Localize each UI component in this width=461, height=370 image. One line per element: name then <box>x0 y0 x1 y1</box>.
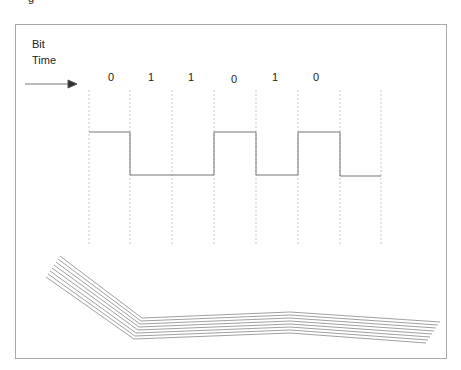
wire-bundle <box>46 256 440 343</box>
diagram-graphics <box>0 0 461 370</box>
time-arrow <box>25 80 77 88</box>
bit-gridlines <box>89 90 381 245</box>
square-wave-signal <box>89 132 381 176</box>
